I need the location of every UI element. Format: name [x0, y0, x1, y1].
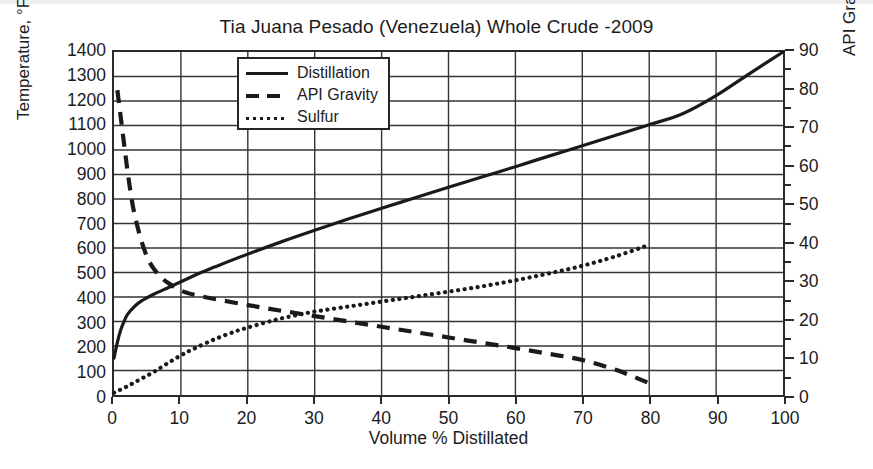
- y-tick-label-left: 1200: [44, 89, 106, 110]
- y-tick-label-right: 80: [799, 78, 849, 99]
- x-tick-label: 0: [82, 408, 142, 429]
- chart-figure: Tia Juana Pesado (Venezuela) Whole Crude…: [0, 0, 873, 469]
- legend-swatch-dashed-icon: [244, 88, 290, 102]
- y-tick-label-right: 30: [799, 271, 849, 292]
- y-tick-label-left: 1400: [44, 40, 106, 61]
- y-tick-label-right: 40: [799, 232, 849, 253]
- tick-mark-x: [313, 397, 315, 404]
- tick-mark-right: [785, 280, 794, 282]
- tick-mark-right: [785, 126, 794, 128]
- legend-item-distillation: Distillation: [244, 62, 388, 84]
- y-axis-label-left: Temperature, °F: [14, 90, 34, 120]
- legend-swatch-dotted-icon: [244, 110, 290, 124]
- tick-mark-x: [111, 397, 113, 404]
- y-tick-label-right: 20: [799, 309, 849, 330]
- tick-mark-x: [380, 397, 382, 404]
- legend-swatch-solid-icon: [244, 66, 290, 80]
- y-tick-label-left: 800: [44, 188, 106, 209]
- chart-legend: Distillation API Gravity Sulfur: [237, 57, 390, 130]
- x-tick-label: 60: [486, 408, 546, 429]
- tick-mark-right: [785, 242, 794, 244]
- data-series-layer: [114, 52, 783, 395]
- x-axis-label: Volume % Distillated: [112, 428, 785, 449]
- y-tick-label-left: 900: [44, 163, 106, 184]
- tick-mark-x: [784, 397, 786, 404]
- y-tick-label-left: 400: [44, 287, 106, 308]
- tick-mark-right: [785, 203, 794, 205]
- tick-mark-right-minor: [785, 300, 791, 302]
- legend-item-sulfur: Sulfur: [244, 106, 388, 128]
- tick-mark-right-minor: [785, 184, 791, 186]
- legend-item-api-gravity: API Gravity: [244, 84, 388, 106]
- legend-label-distillation: Distillation: [297, 65, 370, 81]
- y-tick-label-left: 1000: [44, 139, 106, 160]
- y-tick-label-right: 90: [799, 40, 849, 61]
- tick-mark-x: [246, 397, 248, 404]
- y-tick-label-right: 0: [799, 387, 849, 408]
- chart-title: Tia Juana Pesado (Venezuela) Whole Crude…: [0, 16, 873, 38]
- series-line-distillation: [114, 52, 783, 358]
- legend-label-sulfur: Sulfur: [297, 109, 339, 125]
- series-line-api-gravity: [117, 90, 649, 383]
- plot-area: [112, 50, 785, 397]
- tick-mark-right: [785, 88, 794, 90]
- y-tick-label-right: 10: [799, 348, 849, 369]
- tick-mark-x: [649, 397, 651, 404]
- y-tick-label-left: 200: [44, 337, 106, 358]
- y-tick-label-left: 300: [44, 312, 106, 333]
- tick-mark-right: [785, 319, 794, 321]
- x-tick-label: 40: [351, 408, 411, 429]
- tick-mark-right: [785, 49, 794, 51]
- y-tick-label-left: 1100: [44, 114, 106, 135]
- x-tick-label: 30: [284, 408, 344, 429]
- y-tick-label-left: 0: [44, 387, 106, 408]
- scan-artifact-band: [0, 0, 873, 4]
- tick-mark-right: [785, 396, 794, 398]
- y-tick-label-left: 600: [44, 238, 106, 259]
- y-tick-label-left: 700: [44, 213, 106, 234]
- x-tick-label: 10: [149, 408, 209, 429]
- tick-mark-right-minor: [785, 223, 791, 225]
- tick-mark-right-minor: [785, 338, 791, 340]
- tick-mark-x: [515, 397, 517, 404]
- x-tick-label: 80: [620, 408, 680, 429]
- tick-mark-x: [582, 397, 584, 404]
- x-tick-label: 90: [688, 408, 748, 429]
- x-tick-label: 50: [419, 408, 479, 429]
- y-tick-label-left: 1300: [44, 64, 106, 85]
- tick-mark-x: [178, 397, 180, 404]
- y-tick-label-left: 500: [44, 263, 106, 284]
- x-tick-label: 20: [217, 408, 277, 429]
- tick-mark-right-minor: [785, 145, 791, 147]
- y-tick-label-right: 60: [799, 155, 849, 176]
- tick-mark-right-minor: [785, 68, 791, 70]
- tick-mark-x: [717, 397, 719, 404]
- tick-mark-right: [785, 357, 794, 359]
- tick-mark-x: [448, 397, 450, 404]
- tick-mark-right: [785, 165, 794, 167]
- series-line-sulfur: [114, 245, 649, 393]
- x-tick-label: 100: [755, 408, 815, 429]
- tick-mark-right-minor: [785, 107, 791, 109]
- y-tick-label-right: 50: [799, 194, 849, 215]
- legend-label-api-gravity: API Gravity: [297, 87, 378, 103]
- y-tick-label-right: 70: [799, 117, 849, 138]
- tick-mark-right-minor: [785, 261, 791, 263]
- x-tick-label: 70: [553, 408, 613, 429]
- y-tick-label-left: 100: [44, 362, 106, 383]
- tick-mark-right-minor: [785, 377, 791, 379]
